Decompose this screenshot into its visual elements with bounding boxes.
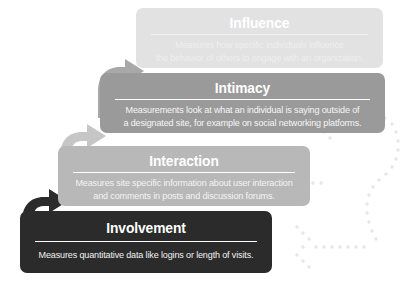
level-body-influence: Measures how specific individuals influe… [150, 39, 369, 64]
level-panel-interaction[interactable]: Interaction Measures site specific infor… [58, 146, 310, 206]
level-title-involvement: Involvement [37, 219, 254, 236]
level-title-intimacy: Intimacy [119, 79, 366, 96]
level-panel-involvement[interactable]: Involvement Measures quantitative data l… [20, 211, 272, 273]
level-body-line: the behavior of others to engage with an… [150, 52, 369, 65]
level-body-involvement: Measures quantitative data like logins o… [34, 249, 258, 262]
level-body-line: Measures quantitative data like logins o… [34, 249, 258, 262]
level-body-line: and comments in posts and discussion for… [72, 190, 296, 203]
level-panel-intimacy[interactable]: Intimacy Measurements look at what an in… [100, 73, 385, 133]
level-divider-involvement [35, 241, 257, 242]
engagement-pyramid-diagram: Influence Measures how specific individu… [0, 0, 408, 295]
level-body-line: a designated site, for example on social… [115, 117, 371, 130]
level-body-interaction: Measures site specific information about… [72, 177, 296, 202]
level-body-line: Measurements look at what an individual … [115, 104, 371, 117]
level-title-interaction: Interaction [75, 152, 292, 169]
level-divider-intimacy [115, 99, 370, 100]
level-panel-influence[interactable]: Influence Measures how specific individu… [136, 8, 383, 68]
level-title-influence: Influence [153, 14, 366, 31]
level-body-line: Measures how specific individuals influe… [150, 39, 369, 52]
level-body-intimacy: Measurements look at what an individual … [115, 104, 371, 129]
level-body-line: Measures site specific information about… [72, 177, 296, 190]
level-divider-influence [151, 34, 368, 35]
level-divider-interaction [73, 172, 295, 173]
